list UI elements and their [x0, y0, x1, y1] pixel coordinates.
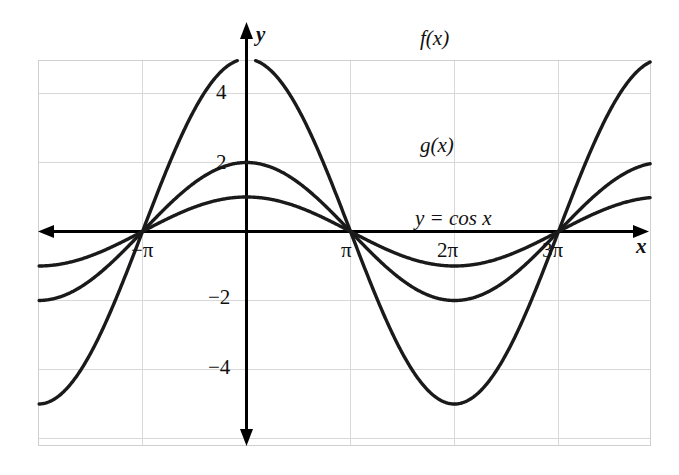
- y-axis-label: y: [256, 24, 265, 45]
- plot-canvas: [0, 0, 679, 475]
- y-tick-4: 4: [216, 82, 227, 103]
- f-of-x-curve-label: f(x): [420, 28, 449, 49]
- x-tick-minus-pi: −π: [131, 240, 153, 261]
- g-of-x-curve-label: g(x): [420, 135, 454, 156]
- x-tick-3pi: 3π: [542, 240, 563, 261]
- x-axis-label: x: [636, 236, 647, 257]
- cos-curve-label: y = cos x: [415, 208, 492, 229]
- cosine-family-graph-figure: y x −π π 2π 3π 4 2 −2 −4 f(x) g(x) y = c…: [0, 0, 679, 475]
- x-tick-2pi: 2π: [437, 240, 458, 261]
- y-tick-minus-2: −2: [208, 287, 230, 308]
- x-axis-arrow-left: [38, 225, 54, 238]
- y-axis-arrow-down: [240, 429, 253, 446]
- y-tick-minus-4: −4: [208, 357, 230, 378]
- y-tick-2: 2: [216, 152, 227, 173]
- x-tick-pi: π: [341, 240, 352, 261]
- y-axis-arrow-up: [240, 22, 253, 39]
